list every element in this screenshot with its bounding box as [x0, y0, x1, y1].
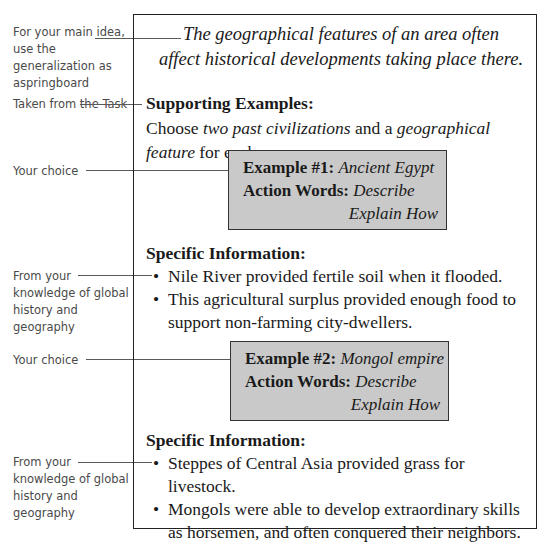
bullet-text: Nile River provided fertile soil when it…	[168, 266, 502, 286]
main-idea-line-1: The geographical features of an area oft…	[145, 22, 537, 47]
example-2-info-heading: Specific Information:	[146, 430, 306, 451]
example-1-info-heading: Specific Information:	[146, 243, 306, 264]
annotation-knowledge-2: From your knowledge of global history an…	[13, 454, 133, 522]
list-item: •Nile River provided fertile soil when i…	[150, 265, 535, 288]
annotation-choice-1: Your choice	[13, 163, 133, 180]
annotation-knowledge-1: From your knowledge of global history an…	[13, 268, 133, 336]
annotation-choice-2: Your choice	[13, 352, 133, 369]
bullet-text: Mongols were able to develop extraordina…	[168, 499, 521, 542]
bullet-icon: •	[153, 288, 159, 311]
list-item: •Mongols were able to develop extraordin…	[150, 498, 535, 544]
example-1-label: Example #1:	[243, 158, 334, 177]
example-2-bullets: •Steppes of Central Asia provided grass …	[150, 452, 535, 544]
bullet-text: Steppes of Central Asia provided grass f…	[168, 453, 464, 496]
example-1-box: Example #1: Ancient Egypt Action Words: …	[228, 150, 447, 230]
main-idea-line-2: affect historical developments taking pl…	[145, 47, 537, 72]
example-1-action-label: Action Words:	[243, 181, 349, 200]
bullet-icon: •	[153, 265, 159, 288]
instruction-emphasis-civilizations: two past civilizations	[203, 118, 351, 138]
example-1-action-describe: Describe	[353, 181, 414, 200]
bullet-icon: •	[153, 498, 159, 521]
list-item: •Steppes of Central Asia provided grass …	[150, 452, 535, 498]
example-2-box: Example #2: Mongol empire Action Words: …	[230, 341, 449, 421]
example-2-action-label: Action Words:	[245, 372, 351, 391]
example-2-value: Mongol empire	[340, 349, 444, 368]
example-1-value: Ancient Egypt	[338, 158, 434, 177]
example-2-action-describe: Describe	[355, 372, 416, 391]
bullet-icon: •	[153, 452, 159, 475]
instruction-text: Choose	[146, 118, 203, 138]
example-2-action-explain: Explain How	[245, 393, 448, 416]
main-idea: The geographical features of an area oft…	[145, 22, 537, 72]
supporting-examples-heading: Supporting Examples:	[146, 93, 314, 114]
bullet-text: This agricultural surplus provided enoug…	[168, 289, 516, 332]
instruction-text: and a	[351, 118, 397, 138]
example-1-action-explain: Explain How	[243, 202, 446, 225]
list-item: •This agricultural surplus provided enou…	[150, 288, 535, 334]
example-1-bullets: •Nile River provided fertile soil when i…	[150, 265, 535, 334]
annotation-main-idea: For your main idea, use the generalizati…	[13, 24, 133, 92]
example-2-label: Example #2:	[245, 349, 336, 368]
